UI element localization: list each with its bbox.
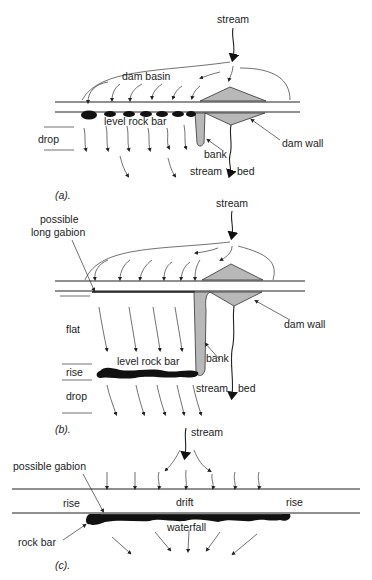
panel-b: stream possible long gabion dam wall fla… [31,197,325,435]
label-dam-wall-b: dam wall [284,318,325,330]
panel-a: stream dam basin l [38,13,323,201]
label-rise-left: rise [63,497,80,509]
label-rise-b: rise [66,366,83,378]
dam-wall-lower-b [210,292,262,306]
label-dam-basin: dam basin [122,70,171,82]
label-level-rock-bar-b: level rock bar [117,355,180,367]
label-drift: drift [176,496,194,508]
panel-c: stream possible gabion rise drift rise w… [12,426,360,571]
figure-canvas: stream dam basin l [0,0,372,580]
label-stream-b: stream [216,197,248,209]
label-bed-b: bed [238,382,256,394]
label-long-gabion: long gabion [31,226,85,238]
label-drop-b: drop [66,390,87,402]
label-dam-wall-a: dam wall [282,137,323,149]
label-bed-a: bed [237,165,255,177]
label-waterfall: waterfall [166,521,206,533]
dam-wall-upper-b [202,264,263,280]
basin-outline-left-b [85,242,230,280]
caption-a: (a). [55,189,71,201]
label-stream-a: stream [190,165,222,177]
dam-wall-upper [200,87,266,101]
label-possible: possible [40,213,79,225]
label-rise-right: rise [286,496,303,508]
stream-arrow [233,28,234,58]
label-possible-gabion: possible gabion [13,460,86,472]
label-flat: flat [66,323,80,335]
bank [195,113,205,146]
label-rock-bar: rock bar [18,536,56,548]
caption-c: (c). [55,559,70,571]
label-stream: stream [217,13,249,25]
label-stream-b2: stream [196,382,228,394]
label-level-rock-bar: level rock bar [104,115,167,127]
label-drop: drop [38,133,59,145]
label-stream-c: stream [191,426,223,438]
label-bank: bank [204,148,228,160]
label-bank-b: bank [206,352,230,364]
level-rock-bar-b [97,368,199,379]
caption-b: (b). [55,423,71,435]
